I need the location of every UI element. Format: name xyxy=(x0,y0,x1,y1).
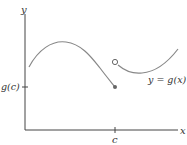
graph-svg: y x c g(c) y = g(x) xyxy=(0,0,187,145)
function-graph-diagram: y x c g(c) y = g(x) xyxy=(0,0,187,145)
open-point xyxy=(112,59,117,64)
y-axis-label: y xyxy=(20,4,27,15)
left-curve xyxy=(29,42,115,87)
curve-label: y = g(x) xyxy=(147,74,187,85)
x-tick-label: c xyxy=(112,134,118,145)
y-tick-label: g(c) xyxy=(1,81,20,92)
x-axis-label: x xyxy=(180,125,186,136)
right-curve xyxy=(118,49,178,73)
closed-point xyxy=(113,85,117,89)
